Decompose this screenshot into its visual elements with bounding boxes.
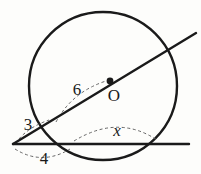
main-circle — [29, 12, 177, 160]
center-dot — [107, 78, 114, 85]
label-x: x — [112, 121, 121, 140]
label-three: 3 — [24, 115, 33, 134]
geometry-figure: 6 3 4 x O — [0, 0, 201, 174]
label-center-o: O — [108, 86, 120, 105]
geometry-canvas: 6 3 4 x O — [0, 0, 201, 174]
label-six: 6 — [73, 80, 82, 99]
label-four: 4 — [40, 149, 49, 168]
secant-through-center — [13, 33, 196, 144]
